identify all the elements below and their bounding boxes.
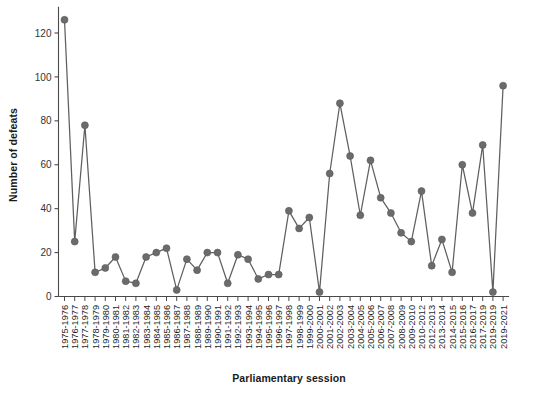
x-tick-label: 2019-2021 <box>499 305 509 349</box>
y-tick-label: 120 <box>35 28 52 39</box>
data-point: 1992-1993: 19 <box>234 251 241 258</box>
data-point: 2014-2015: 11 <box>449 269 456 276</box>
data-point: 2017-2019: 69 <box>479 141 486 148</box>
data-point: 1983-1984: 18 <box>143 253 150 260</box>
x-tick-label: 1996-1997 <box>274 305 284 349</box>
x-tick-label: 1978-1979 <box>91 305 101 349</box>
data-point: 2000-2001: 2 <box>316 289 323 296</box>
x-tick-label: 1985-1986 <box>162 305 172 349</box>
data-point: 1977-1978: 78 <box>81 122 88 129</box>
x-tick-label: 2005-2006 <box>366 305 376 349</box>
data-point: 2015-2016: 60 <box>459 161 466 168</box>
x-tick-label: 1975-1976 <box>60 305 70 349</box>
data-point: 1975-1976: 126 <box>61 16 68 23</box>
data-point: 1993-1994: 17 <box>245 256 252 263</box>
data-point: 2007-2008: 38 <box>387 210 394 217</box>
data-point: 1990-1991: 20 <box>214 249 221 256</box>
series-markers: 1975-1976: 1261976-1977: 251977-1978: 78… <box>61 16 507 295</box>
data-point: 1982-1983: 6 <box>132 280 139 287</box>
x-tick-label: 1991-1992 <box>223 305 233 349</box>
x-tick-label: 2016-2017 <box>468 305 478 349</box>
x-tick-label: 2003-2004 <box>346 305 356 349</box>
x-tick-label: 1977-1978 <box>80 305 90 349</box>
data-point: 2008-2009: 29 <box>398 229 405 236</box>
data-point: 1989-1990: 20 <box>204 249 211 256</box>
x-tick-label: 1988-1989 <box>193 305 203 349</box>
chart-figure: Number of defeats 0204060801001201975-19… <box>0 0 536 395</box>
data-point: 1978-1979: 11 <box>92 269 99 276</box>
x-tick-label: 2000-2001 <box>315 305 325 349</box>
data-point: 1994-1995: 8 <box>255 275 262 282</box>
x-tick-label: 1976-1977 <box>70 305 80 349</box>
x-tick-label: 1982-1983 <box>131 305 141 349</box>
x-tick-label: 1984-1985 <box>152 305 162 349</box>
data-point: 1997-1998: 39 <box>285 207 292 214</box>
x-tick-label: 2014-2015 <box>448 305 458 349</box>
x-tick-label: 2008-2009 <box>397 305 407 349</box>
data-point: 2012-2013: 14 <box>428 262 435 269</box>
data-point: 2003-2004: 64 <box>347 152 354 159</box>
data-point: 1996-1997: 10 <box>275 271 282 278</box>
data-point: 1991-1992: 6 <box>224 280 231 287</box>
data-point: 1999-2000: 36 <box>306 214 313 221</box>
x-tick-label: 1986-1987 <box>172 305 182 349</box>
data-point: 1988-1989: 12 <box>194 267 201 274</box>
x-tick-label: 1997-1998 <box>284 305 294 349</box>
y-tick-label: 100 <box>35 72 52 83</box>
x-tick-label: 2002-2003 <box>335 305 345 349</box>
x-tick-label: 2015-2016 <box>458 305 468 349</box>
x-tick-label: 1995-1996 <box>264 305 274 349</box>
data-point: 2001-2002: 56 <box>326 170 333 177</box>
x-tick-label: 2013-2014 <box>437 305 447 349</box>
data-point: 2016-2017: 38 <box>469 210 476 217</box>
y-tick-label: 80 <box>40 115 52 126</box>
x-tick-label: 1989-1990 <box>203 305 213 349</box>
x-tick-label: 1993-1994 <box>244 305 254 349</box>
data-point: 1998-1999: 31 <box>296 225 303 232</box>
data-point: 2002-2003: 88 <box>336 100 343 107</box>
data-point: 2019-2019: 2 <box>489 289 496 296</box>
data-point: 1979-1980: 13 <box>102 264 109 271</box>
data-point: 1981-1982: 7 <box>122 278 129 285</box>
data-point: 2006-2007: 45 <box>377 194 384 201</box>
x-tick-label: 1981-1982 <box>121 305 131 349</box>
x-tick-label: 1990-1991 <box>213 305 223 349</box>
x-tick-label: 1980-1981 <box>111 305 121 349</box>
data-point: 1985-1986: 22 <box>163 245 170 252</box>
y-tick-label: 20 <box>40 247 52 258</box>
x-tick-label: 2012-2013 <box>427 305 437 349</box>
data-point: 1995-1996: 10 <box>265 271 272 278</box>
y-tick-label: 40 <box>40 203 52 214</box>
data-point: 2005-2006: 62 <box>367 157 374 164</box>
data-point: 2013-2014: 26 <box>438 236 445 243</box>
x-tick-label: 1983-1984 <box>142 305 152 349</box>
x-tick-label: 2009-2010 <box>407 305 417 349</box>
y-tick-label: 0 <box>46 291 52 302</box>
x-tick-label: 2007-2008 <box>386 305 396 349</box>
line-chart-plot: 0204060801001201975-19761976-19771977-19… <box>0 0 536 395</box>
data-point: 1986-1987: 3 <box>173 286 180 293</box>
x-tick-label: 2019-2019 <box>488 305 498 349</box>
y-tick-label: 60 <box>40 159 52 170</box>
x-tick-label: 1987-1988 <box>182 305 192 349</box>
data-point: 1987-1988: 17 <box>183 256 190 263</box>
data-point: 1976-1977: 25 <box>71 238 78 245</box>
data-point: 2004-2005: 37 <box>357 212 364 219</box>
x-tick-label: 2006-2007 <box>376 305 386 349</box>
x-tick-label: 2010-2012 <box>417 305 427 349</box>
data-point: 2010-2012: 48 <box>418 188 425 195</box>
x-tick-label: 1979-1980 <box>101 305 111 349</box>
series-line <box>65 20 504 292</box>
x-tick-label: 2004-2005 <box>356 305 366 349</box>
x-tick-label: 1998-1999 <box>295 305 305 349</box>
data-point: 2009-2010: 25 <box>408 238 415 245</box>
x-tick-label: 2017-2019 <box>478 305 488 349</box>
x-tick-label: 1994-1995 <box>254 305 264 349</box>
x-tick-label: 1999-2000 <box>305 305 315 349</box>
x-tick-label: 2001-2002 <box>325 305 335 349</box>
data-point: 2019-2021: 96 <box>500 82 507 89</box>
x-tick-label: 1992-1993 <box>233 305 243 349</box>
x-axis-title-container: Parliamentary session <box>0 372 536 384</box>
x-axis-title: Parliamentary session <box>232 372 346 384</box>
data-point: 1984-1985: 20 <box>153 249 160 256</box>
